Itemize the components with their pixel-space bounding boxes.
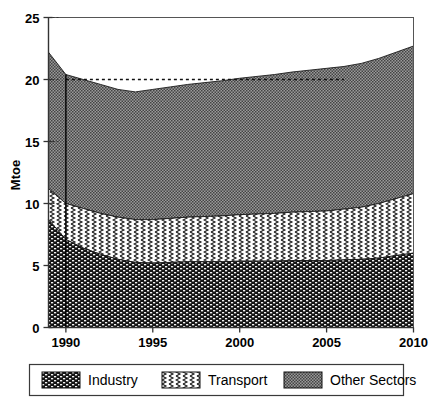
legend-item-other-sectors[interactable]: Other Sectors [284,372,416,388]
legend-item-industry[interactable]: Industry [42,372,138,388]
stacked-areas [49,46,414,327]
y-tick-label: 15 [25,135,39,150]
x-axis: 19901995200020052010 [51,328,428,350]
x-tick-label: 2010 [399,335,428,350]
y-tick-label: 25 [25,11,39,26]
x-tick-label: 2005 [312,335,341,350]
x-tick-label: 1990 [51,335,80,350]
y-axis-title: Mtoe [8,160,23,190]
legend-swatch-industry [42,372,80,388]
x-tick-label: 1995 [138,335,167,350]
legend-label-other-sectors: Other Sectors [330,372,416,388]
legend-swatch-transport [162,372,200,388]
y-tick-label: 20 [25,73,39,88]
x-tick-label: 2000 [225,335,254,350]
legend: Industry Transport Other Sectors [30,365,417,396]
y-tick-label: 5 [32,259,39,274]
y-tick-label: 0 [32,321,39,336]
legend-swatch-other-sectors [284,372,322,388]
legend-label-transport: Transport [208,372,268,388]
chart-container: 0510152025 19901995200020052010 Mtoe Ind… [0,0,432,401]
area-chart-svg: 0510152025 19901995200020052010 Mtoe Ind… [0,0,432,401]
legend-label-industry: Industry [88,372,138,388]
y-tick-label: 10 [25,197,39,212]
legend-item-transport[interactable]: Transport [162,372,268,388]
